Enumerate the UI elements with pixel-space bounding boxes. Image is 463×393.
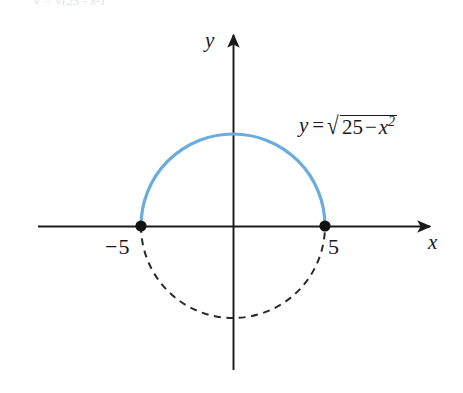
radicand-variable: x [379, 115, 388, 139]
equation-equals-sign: = [312, 115, 324, 136]
radicand-minus-sign: − [365, 115, 377, 139]
y-axis-label: y [205, 30, 214, 51]
radicand-exponent: 2 [388, 114, 395, 129]
x-axis-label: x [428, 232, 437, 253]
radicand-constant: 25 [342, 115, 363, 139]
tick-label-positive-five: 5 [328, 236, 339, 258]
tick-label-negative-five: −5 [105, 236, 130, 258]
radicand: 25−x2 [340, 115, 397, 138]
radical-sign-icon: √ [327, 114, 339, 137]
endpoint-marker-right [319, 220, 330, 231]
figure-container: y = √(25 - x²) y x −5 5 y = √ 25−x2 [0, 0, 463, 393]
equation-annotation: y = √ 25−x2 [299, 115, 397, 138]
equation-lhs-variable: y [299, 115, 308, 136]
endpoint-marker-left [135, 220, 146, 231]
coordinate-plane-graphic [0, 0, 463, 393]
radical-expression: √ 25−x2 [327, 115, 397, 138]
